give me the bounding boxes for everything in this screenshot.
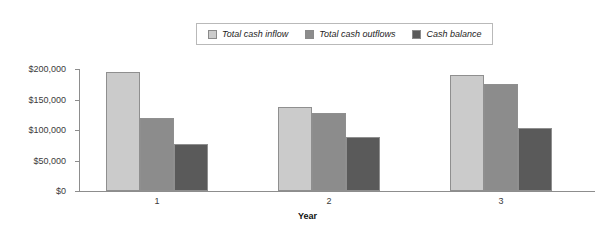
bar[interactable] — [450, 75, 484, 191]
bar[interactable] — [484, 84, 518, 191]
bar[interactable] — [140, 118, 174, 191]
y-axis-tick-label: $100,000 — [28, 125, 66, 135]
bar-group — [450, 69, 552, 191]
bar[interactable] — [278, 107, 312, 191]
legend-swatch-icon — [208, 30, 217, 39]
legend-swatch-icon — [305, 30, 314, 39]
y-axis-tick-label: $200,000 — [28, 64, 66, 74]
y-axis-tick-label: $50,000 — [33, 156, 66, 166]
x-axis-line — [79, 191, 595, 192]
legend-label: Cash balance — [426, 30, 481, 39]
x-axis-tick-label: 3 — [498, 196, 503, 206]
legend-item[interactable]: Total cash inflow — [208, 30, 288, 39]
bar[interactable] — [174, 144, 208, 191]
bar[interactable] — [312, 113, 346, 191]
bar[interactable] — [346, 137, 380, 191]
legend-swatch-icon — [412, 30, 421, 39]
plot-area — [79, 69, 595, 191]
y-axis-tick-label: $0 — [56, 186, 66, 196]
bar-chart: Total cash inflowTotal cash outflowsCash… — [0, 0, 615, 239]
legend-item[interactable]: Cash balance — [412, 30, 481, 39]
y-axis: $0$50,000$100,000$150,000$200,000 — [0, 69, 74, 191]
y-axis-tick-label: $150,000 — [28, 95, 66, 105]
chart-legend: Total cash inflowTotal cash outflowsCash… — [196, 23, 493, 45]
legend-label: Total cash inflow — [222, 30, 288, 39]
x-axis-tick-label: 2 — [326, 196, 331, 206]
x-axis-tick-label: 1 — [154, 196, 159, 206]
bar-group — [278, 69, 380, 191]
legend-label: Total cash outflows — [319, 30, 395, 39]
bar[interactable] — [106, 72, 140, 191]
legend-item[interactable]: Total cash outflows — [305, 30, 395, 39]
bar-group — [106, 69, 208, 191]
bar[interactable] — [518, 128, 552, 191]
x-axis-title: Year — [0, 211, 615, 221]
